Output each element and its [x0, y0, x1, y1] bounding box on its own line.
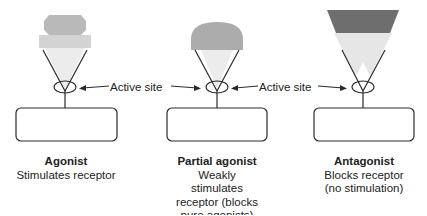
partial-agonist-caption: Partial agonist Weakly stimulates recept…	[152, 155, 282, 215]
arrow-left-to-partial-icon	[231, 85, 238, 91]
agonist-description: Stimulates receptor	[1, 169, 131, 183]
partial-agonist-title: Partial agonist	[152, 155, 282, 169]
agonist-ligand	[39, 15, 91, 90]
partial-agonist-receptor-box	[167, 108, 267, 141]
arrow-right-to-antagonist-icon	[340, 85, 347, 91]
antagonist-description: Blocks receptor (no stimulation)	[318, 169, 410, 196]
arrow-right-to-partial-icon	[194, 85, 201, 91]
active-site-label-right: Active site	[259, 81, 311, 93]
agonist-receptor-box	[16, 108, 117, 141]
agonist-caption: Agonist Stimulates receptor	[1, 155, 131, 182]
partial-agonist-description: Weakly stimulates receptor (blocks pure …	[172, 169, 262, 216]
antagonist-receptor-box	[314, 108, 414, 141]
agonist-title: Agonist	[1, 155, 131, 169]
partial-agonist-ligand	[191, 22, 243, 88]
active-site-label-left: Active site	[110, 81, 162, 93]
antagonist-caption: Antagonist Blocks receptor (no stimulati…	[299, 155, 427, 196]
antagonist-ligand	[327, 10, 399, 76]
antagonist-title: Antagonist	[299, 155, 427, 169]
arrow-left-to-agonist-icon	[79, 85, 86, 91]
